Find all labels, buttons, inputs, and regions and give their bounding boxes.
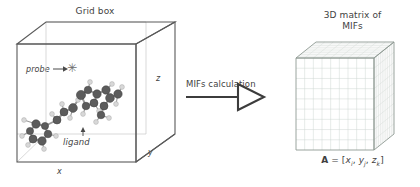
carbon-atom [97, 111, 105, 119]
carbon-atom [41, 122, 48, 129]
carbon-atom [38, 137, 46, 145]
hydrogen-atom [88, 80, 93, 85]
carbon-atom [44, 130, 52, 138]
carbon-atom [82, 102, 90, 110]
ligand-molecule [20, 80, 125, 152]
figure-linework [0, 0, 420, 187]
carbon-atom [32, 120, 40, 128]
carbon-atom [69, 104, 78, 113]
carbon-atom [84, 86, 92, 94]
ligand-pointer-arrow [81, 127, 86, 136]
carbon-atom [26, 127, 33, 134]
hydrogen-atom [22, 118, 27, 123]
carbon-atom [76, 90, 85, 99]
carbon-atom [93, 90, 101, 98]
probe-pointer-arrow [53, 66, 68, 72]
carbon-atom [53, 116, 61, 124]
carbon-atom [102, 86, 110, 94]
mifs-matrix-cube [296, 42, 394, 150]
carbon-atom [90, 99, 98, 107]
mifs-calculation-arrow [186, 84, 264, 110]
hydrogen-atom [68, 116, 73, 121]
carbon-atom [29, 135, 37, 143]
carbon-atom [60, 108, 68, 116]
hydrogen-atom [60, 102, 65, 107]
hydrogen-atom [110, 82, 115, 87]
grid-box-bottom-edge [136, 134, 175, 162]
grid-box-right-face [136, 22, 175, 162]
hydrogen-atom [42, 147, 47, 152]
grid-box-top-face [17, 22, 175, 44]
hydrogen-atom [107, 116, 112, 121]
matrix-front-fill [296, 58, 374, 150]
hydrogen-atom [50, 112, 55, 117]
carbon-atom [114, 90, 122, 98]
figure-root: Grid box z y x probe ✳ ligand MIFs calcu… [0, 0, 420, 187]
hydrogen-atom [114, 102, 119, 107]
hydrogen-atom [94, 120, 99, 125]
hydrogen-atom [54, 134, 59, 139]
hydrogen-atom [26, 143, 31, 148]
hydrogen-atom [81, 112, 86, 117]
carbon-atom [106, 94, 115, 103]
hydrogen-atom [120, 85, 125, 90]
matrix-right-fill [374, 42, 394, 150]
carbon-atom [100, 102, 108, 110]
hydrogen-atom [20, 134, 25, 139]
